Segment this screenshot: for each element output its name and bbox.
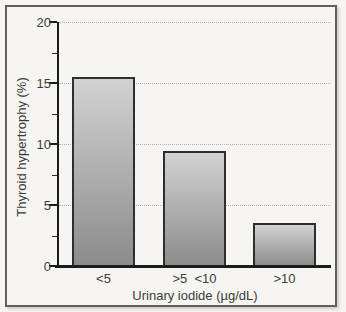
- x-category-label: >10: [245, 271, 325, 286]
- y-minor-tick: [52, 114, 57, 115]
- y-axis-title: Thyroid hypertrophy (%): [14, 77, 29, 216]
- y-minor-tick: [52, 53, 57, 54]
- bar: [253, 223, 316, 268]
- x-category-label: <5: [64, 271, 144, 286]
- bar: [163, 151, 226, 268]
- y-minor-tick: [52, 175, 57, 176]
- chart-frame: 05101520 <5>5 <10>10 Urinary iodide (µg/…: [5, 5, 337, 307]
- x-category-label: >5 <10: [155, 271, 235, 286]
- gridline: [59, 22, 331, 23]
- y-minor-tick: [52, 236, 57, 237]
- x-axis-title: Urinary iodide (µg/dL): [59, 288, 331, 303]
- y-axis-line: [57, 22, 59, 268]
- bar: [72, 77, 135, 268]
- y-tick-label: 0: [15, 259, 51, 274]
- x-axis-line: [55, 265, 331, 268]
- plot-area: 05101520 <5>5 <10>10 Urinary iodide (µg/…: [7, 7, 335, 305]
- y-tick-label: 20: [15, 15, 51, 30]
